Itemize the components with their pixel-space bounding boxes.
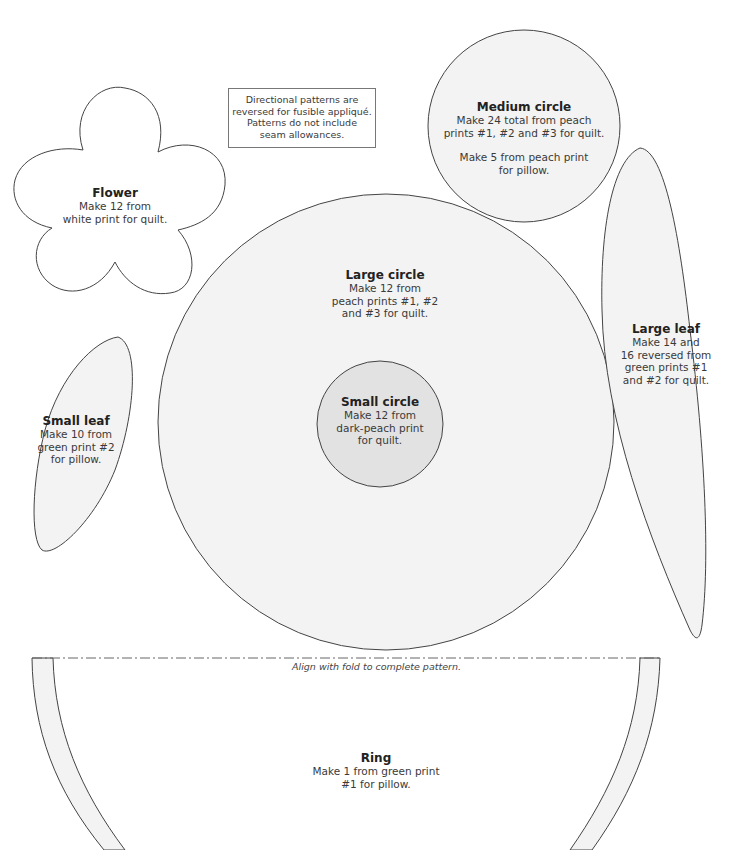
large-leaf-instruction: and #2 for quilt. — [610, 374, 722, 387]
flower-instruction: Make 12 from — [40, 200, 190, 213]
small-circle-label: Small circle Make 12 from dark-peach pri… — [320, 395, 440, 447]
flower-instruction: white print for quilt. — [40, 213, 190, 226]
medium-circle-title: Medium circle — [434, 100, 614, 114]
ring-title: Ring — [276, 751, 476, 765]
small-circle-instruction: dark-peach print — [320, 422, 440, 435]
large-circle-title: Large circle — [310, 268, 460, 282]
pattern-note: Directional patterns are reversed for fu… — [228, 88, 376, 148]
small-leaf-instruction: Make 10 from — [30, 428, 122, 441]
ring-label: Ring Make 1 from green print #1 for pill… — [276, 751, 476, 790]
small-leaf-label: Small leaf Make 10 from green print #2 f… — [30, 414, 122, 466]
small-leaf-instruction: green print #2 — [30, 441, 122, 454]
flower-label: Flower Make 12 from white print for quil… — [40, 186, 190, 225]
ring-shape-right — [570, 658, 660, 850]
large-circle-instruction: Make 12 from — [310, 282, 460, 295]
large-circle-instruction: and #3 for quilt. — [310, 307, 460, 320]
medium-circle-instruction: prints #1, #2 and #3 for quilt. — [434, 127, 614, 140]
medium-circle-instruction: Make 24 total from peach — [434, 114, 614, 127]
note-line: Directional patterns are — [229, 94, 375, 106]
large-leaf-shape — [602, 148, 706, 638]
small-circle-instruction: for quilt. — [320, 434, 440, 447]
large-leaf-instruction: 16 reversed from — [610, 349, 722, 362]
large-circle-label: Large circle Make 12 from peach prints #… — [310, 268, 460, 320]
large-leaf-title: Large leaf — [610, 322, 722, 336]
fold-instruction: Align with fold to complete pattern. — [0, 661, 753, 672]
note-line: seam allowances. — [229, 129, 375, 141]
large-circle-instruction: peach prints #1, #2 — [310, 295, 460, 308]
large-leaf-instruction: Make 14 and — [610, 336, 722, 349]
small-leaf-title: Small leaf — [30, 414, 122, 428]
note-line: reversed for fusible appliqué. — [229, 106, 375, 118]
large-leaf-instruction: green prints #1 — [610, 361, 722, 374]
medium-circle-label: Medium circle Make 24 total from peach p… — [434, 100, 614, 176]
ring-instruction: #1 for pillow. — [276, 778, 476, 791]
ring-shape — [32, 658, 125, 850]
small-leaf-instruction: for pillow. — [30, 453, 122, 466]
ring-instruction: Make 1 from green print — [276, 765, 476, 778]
large-leaf-label: Large leaf Make 14 and 16 reversed from … — [610, 322, 722, 386]
medium-circle-instruction: for pillow. — [434, 164, 614, 177]
note-line: Patterns do not include — [229, 117, 375, 129]
flower-title: Flower — [40, 186, 190, 200]
medium-circle-instruction: Make 5 from peach print — [434, 151, 614, 164]
small-circle-instruction: Make 12 from — [320, 409, 440, 422]
small-circle-title: Small circle — [320, 395, 440, 409]
